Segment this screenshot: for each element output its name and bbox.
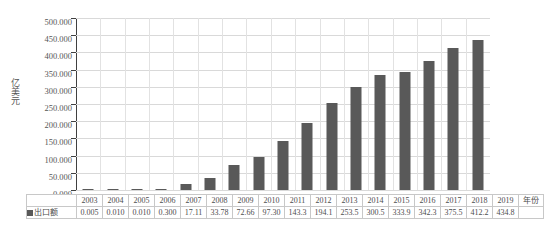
- y-axis-tick-label: 100.000: [20, 156, 72, 165]
- bar-slot: [393, 18, 417, 190]
- bar[interactable]: [448, 48, 459, 190]
- table-cell-value: 300.5: [363, 207, 389, 219]
- bar-slot: [368, 18, 392, 190]
- bar[interactable]: [253, 157, 264, 190]
- table-cell-year: 2012: [311, 195, 337, 207]
- table-cell-value: 33.78: [207, 207, 233, 219]
- bar[interactable]: [399, 72, 410, 190]
- horizontal-gridline: [76, 190, 490, 191]
- table-cell-year: 2011: [285, 195, 311, 207]
- bar[interactable]: [156, 189, 167, 191]
- y-axis-tick-label: 200.000: [20, 121, 72, 130]
- bar[interactable]: [204, 178, 215, 190]
- table-cell-year: 2007: [181, 195, 207, 207]
- y-axis-tick-mark: [71, 35, 76, 36]
- bar-slot: [198, 18, 222, 190]
- bar[interactable]: [424, 61, 435, 190]
- bar[interactable]: [277, 141, 288, 190]
- y-axis-tick-mark: [71, 173, 76, 174]
- table-cell-value: 0.300: [155, 207, 181, 219]
- bar[interactable]: [351, 87, 362, 190]
- table-cell-year: 2003: [77, 195, 103, 207]
- y-axis-tick-labels: 500.000450.000400.000350.000300.000250.0…: [20, 12, 72, 196]
- table-cell-year: 2019: [493, 195, 519, 207]
- table-row-values: 出口额0.0050.0100.0100.30017.1133.7872.6697…: [27, 207, 544, 219]
- bar-slot: [222, 18, 246, 190]
- table-cell-value: 412.2: [467, 207, 493, 219]
- table-cell-value: 0.005: [77, 207, 103, 219]
- bar-slot: [295, 18, 319, 190]
- table-cell-year: 2018: [467, 195, 493, 207]
- table-cell-value: 72.66: [233, 207, 259, 219]
- y-axis-tick-mark: [71, 70, 76, 71]
- table-cell-value: 0.010: [129, 207, 155, 219]
- bar[interactable]: [326, 103, 337, 190]
- table-cell-year: 2009: [233, 195, 259, 207]
- y-axis-tick-label: 350.000: [20, 70, 72, 79]
- table-cell-year: 2008: [207, 195, 233, 207]
- y-axis-tick-mark: [71, 104, 76, 105]
- table-cell-value: 375.5: [441, 207, 467, 219]
- y-axis-tick-mark: [71, 18, 76, 19]
- table-cell-value: 434.8: [493, 207, 519, 219]
- table-cell-year: 2006: [155, 195, 181, 207]
- y-axis-tick-label: 250.000: [20, 104, 72, 113]
- y-axis-tick-label: 50.000: [20, 173, 72, 182]
- y-axis-tick-label: 300.000: [20, 87, 72, 96]
- bar-slot: [441, 18, 465, 190]
- table-cell-year: 2013: [337, 195, 363, 207]
- table-cell-value: 143.3: [285, 207, 311, 219]
- y-axis-title: 亿美元: [2, 78, 20, 105]
- x-axis-title: 年份: [519, 195, 544, 207]
- y-axis-tick-label: 150.000: [20, 138, 72, 147]
- bar-slot: [76, 18, 100, 190]
- legend-swatch-icon: [27, 210, 33, 216]
- table-cell-value: 253.5: [337, 207, 363, 219]
- bar[interactable]: [302, 123, 313, 190]
- table-cell-year: 2004: [103, 195, 129, 207]
- bars-layer: [76, 18, 490, 190]
- bar-slot: [173, 18, 197, 190]
- table-cell-value: 0.010: [103, 207, 129, 219]
- table-cell-value: 97.30: [259, 207, 285, 219]
- bar[interactable]: [375, 75, 386, 190]
- plot-area: [76, 18, 490, 190]
- bar[interactable]: [83, 189, 94, 191]
- table-cell-year: 2015: [389, 195, 415, 207]
- legend-cell: 出口额: [27, 207, 77, 219]
- table-row-years: 2003200420052006200720082009201020112012…: [27, 195, 544, 207]
- y-axis-tick-mark: [71, 121, 76, 122]
- bar-slot: [149, 18, 173, 190]
- bar-slot: [344, 18, 368, 190]
- table-corner-cell: [27, 195, 77, 207]
- bar[interactable]: [131, 189, 142, 191]
- y-axis-tick-mark: [71, 87, 76, 88]
- bar[interactable]: [180, 184, 191, 190]
- bar-slot: [466, 18, 490, 190]
- y-axis-tick-mark: [71, 52, 76, 53]
- bar[interactable]: [107, 189, 118, 191]
- bar[interactable]: [229, 165, 240, 190]
- legend-label: 出口额: [34, 208, 58, 217]
- table-cell-value: 194.1: [311, 207, 337, 219]
- bar-slot: [417, 18, 441, 190]
- y-axis-tick-label: 450.000: [20, 35, 72, 44]
- data-table: 2003200420052006200720082009201020112012…: [26, 194, 544, 219]
- table-cell-year: 2010: [259, 195, 285, 207]
- table-cell-value: 342.3: [415, 207, 441, 219]
- y-axis-tick-label: 500.000: [20, 18, 72, 27]
- y-axis-tick-label: 400.000: [20, 52, 72, 61]
- bar-slot: [271, 18, 295, 190]
- bar-slot: [320, 18, 344, 190]
- bar[interactable]: [472, 40, 483, 190]
- table-cell-year: 2016: [415, 195, 441, 207]
- y-axis-tick-mark: [71, 138, 76, 139]
- table-cell-value: 17.11: [181, 207, 207, 219]
- table-cell-year: 2005: [129, 195, 155, 207]
- table-blank-cell: [519, 207, 544, 219]
- table-cell-year: 2017: [441, 195, 467, 207]
- y-axis-tick-mark: [71, 190, 76, 191]
- y-axis-tick-mark: [71, 156, 76, 157]
- table-cell-year: 2014: [363, 195, 389, 207]
